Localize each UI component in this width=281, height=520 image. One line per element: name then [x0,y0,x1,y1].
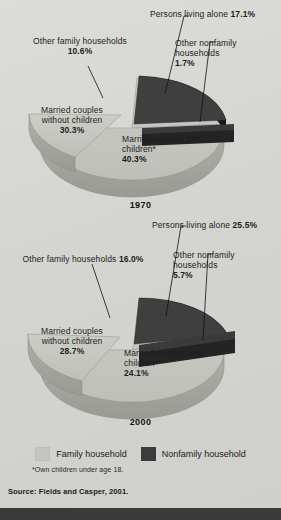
label-other-nonfamily-2000: Other nonfamily households5.7% [173,250,273,280]
label-other-nonfamily-1970: Other nonfamily households1.7% [175,38,275,68]
bottom-rule [0,508,281,520]
label-married-with-children-1970: Married couples with children*40.3% [122,134,214,164]
footnote: *Own children under age 18. [32,466,123,473]
pie-panel-1970: Persons living alone 17.1% Other nonfami… [0,0,281,222]
legend: Family household Nonfamily household [0,442,281,466]
source-citation: Source: Fields and Casper, 2001. [8,487,128,496]
label-other-family-2000: Other family households 16.0% [18,254,148,264]
family-household-swatch-icon [35,447,50,461]
label-married-with-children-2000: Married couples with children*24.1% [124,348,216,378]
year-caption-2000: 2000 [0,417,281,427]
label-married-without-children-1970: Married couples without children30.3% [26,105,118,135]
legend-label-nonfamily: Nonfamily household [162,449,246,459]
label-other-family-1970: Other family households 10.6% [20,36,140,56]
year-caption-1970: 1970 [0,200,281,210]
label-persons-living-alone-1970: Persons living alone 17.1% [150,9,275,19]
persons-alone-top-1970 [134,76,226,124]
nonfamily-household-swatch-icon [141,447,156,461]
legend-item-family: Family household [35,447,127,461]
legend-label-family: Family household [56,449,127,459]
label-married-without-children-2000: Married couples without children28.7% [26,326,118,356]
legend-item-nonfamily: Nonfamily household [141,447,246,461]
label-persons-living-alone-2000: Persons living alone 25.5% [152,220,277,230]
household-composition-figure: Persons living alone 17.1% Other nonfami… [0,0,281,520]
pie-panel-2000: Persons living alone 25.5% Other nonfami… [0,222,281,442]
